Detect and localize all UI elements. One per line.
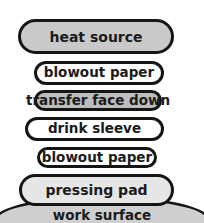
transfer-face-down-layer: transfer face down [34, 90, 162, 111]
blowout-paper-top-layer: blowout paper [34, 61, 164, 85]
blowout-paper-bottom-layer: blowout paper [37, 147, 157, 168]
work-surface-label: work surface [0, 207, 204, 223]
transfer-face-down-label: transfer face down [26, 94, 170, 108]
pressing-pad-layer: pressing pad [19, 174, 174, 206]
heat-source-layer: heat source [18, 19, 174, 54]
heat-source-label: heat source [49, 30, 142, 44]
drink-sleeve-label: drink sleeve [48, 122, 141, 136]
drink-sleeve-layer: drink sleeve [25, 117, 164, 141]
blowout-paper-bottom-label: blowout paper [42, 151, 152, 165]
pressing-pad-label: pressing pad [45, 183, 147, 197]
blowout-paper-top-label: blowout paper [44, 66, 154, 80]
